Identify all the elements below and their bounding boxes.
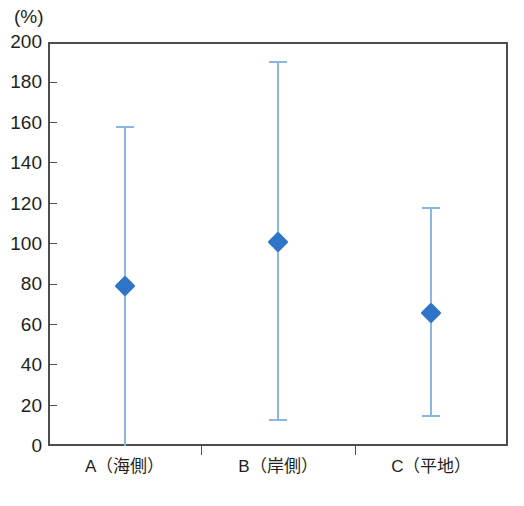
y-axis-tick-label: 100 bbox=[0, 234, 42, 253]
x-axis-category-label: A（海側） bbox=[48, 456, 201, 478]
x-axis-category-label: B（岸側） bbox=[201, 456, 354, 478]
y-axis-tick bbox=[48, 284, 57, 285]
error-bar-cap-lower bbox=[422, 415, 440, 417]
x-axis-tick bbox=[355, 446, 356, 455]
x-axis-category-label: C（平地） bbox=[355, 456, 508, 478]
error-bar-cap-lower bbox=[269, 419, 287, 421]
y-axis-tick-label: 40 bbox=[0, 355, 42, 374]
y-axis-tick bbox=[48, 122, 57, 123]
y-axis-labels: 020406080100120140160180200 bbox=[0, 0, 42, 506]
y-axis-tick bbox=[48, 405, 57, 406]
y-axis-tick-label: 80 bbox=[0, 274, 42, 293]
y-axis-tick bbox=[48, 162, 57, 163]
y-axis-tick-label: 60 bbox=[0, 315, 42, 334]
y-axis-tick-label: 120 bbox=[0, 194, 42, 213]
y-axis-tick-label: 140 bbox=[0, 153, 42, 172]
y-axis-tick-label: 200 bbox=[0, 32, 42, 51]
y-axis-tick bbox=[48, 243, 57, 244]
y-axis-tick-label: 180 bbox=[0, 72, 42, 91]
error-bar-cap-upper bbox=[116, 126, 134, 128]
y-axis-tick bbox=[48, 203, 57, 204]
error-bar-cap-upper bbox=[269, 61, 287, 63]
y-axis-tick bbox=[48, 364, 57, 365]
error-bar-cap-upper bbox=[422, 207, 440, 209]
y-axis-tick bbox=[48, 324, 57, 325]
x-axis-tick bbox=[201, 446, 202, 455]
y-axis-tick bbox=[48, 82, 57, 83]
y-axis-tick-label: 0 bbox=[0, 436, 42, 455]
error-bar-chart: (%) 020406080100120140160180200 A（海側）B（岸… bbox=[0, 0, 524, 506]
y-axis-tick-label: 160 bbox=[0, 113, 42, 132]
y-axis-tick-label: 20 bbox=[0, 396, 42, 415]
